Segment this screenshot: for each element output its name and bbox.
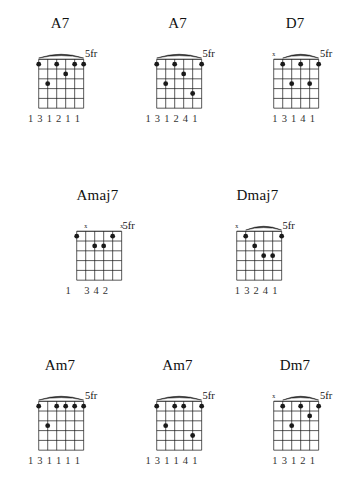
finger-number: 1 [162,112,171,126]
fret-position-label: 5fr [320,391,332,402]
finger-number-row: 13121 [261,454,317,468]
finger-number [110,284,119,298]
chord-diagram: A75fr131211 [8,14,112,130]
fret-position-label: 5fr [123,221,135,232]
fret-position-label: 5fr [203,49,215,60]
finger-number: 1 [233,284,242,298]
finger-number: 4 [91,284,100,298]
finger-number: 1 [73,112,82,126]
fretboard-grid: x5fr13241 [206,206,310,302]
finger-number: 1 [162,454,171,468]
finger-number: 1 [73,454,82,468]
finger-number: 3 [35,112,44,126]
svg-text:x: x [272,393,275,399]
finger-number: 3 [153,454,162,468]
finger-number: 3 [82,284,91,298]
fretboard-grid: 5fr131141 [126,376,230,472]
finger-number: 1 [63,454,72,468]
finger-number: 1 [270,454,279,468]
finger-number: 1 [308,454,317,468]
finger-number [261,112,270,126]
finger-number [73,284,82,298]
fretboard-grid: x5fr13141 [243,34,347,130]
finger-number: 1 [144,112,153,126]
chord-diagram: A75fr131241 [126,14,230,130]
finger-number: 3 [280,112,289,126]
svg-text:x: x [272,51,275,57]
finger-number: 1 [289,454,298,468]
chord-name: A7 [51,14,70,32]
finger-number: 2 [54,112,63,126]
chord-name: Dmaj7 [237,186,279,204]
fret-position-label: 5fr [85,49,97,60]
finger-number-row: 131111 [26,454,82,468]
finger-number-row: 131141 [144,454,200,468]
finger-number: 1 [308,112,317,126]
finger-number-row: 13241 [224,284,280,298]
finger-number: 1 [171,454,180,468]
chord-diagram: D7x5fr13141 [243,14,347,130]
finger-number: 4 [181,112,190,126]
chord-name: D7 [286,14,305,32]
fretboard-grid: 5fr131211 [8,34,112,130]
finger-number: 1 [45,112,54,126]
finger-number-row: 131211 [26,112,82,126]
chord-diagram: Dmaj7x5fr13241 [206,186,310,302]
finger-number-row: 13141 [261,112,317,126]
chord-name: Am7 [45,356,76,374]
fret-position-label: 5fr [320,49,332,60]
chord-diagram: Amaj7xx5fr1342 [46,186,150,302]
finger-number: 4 [298,112,307,126]
chord-diagram: Am75fr131141 [126,356,230,472]
finger-number: 2 [298,454,307,468]
finger-number: 3 [153,112,162,126]
finger-number: 1 [270,284,279,298]
chord-name: Amaj7 [77,186,119,204]
finger-number: 2 [251,284,260,298]
finger-number: 1 [190,112,199,126]
finger-number: 1 [270,112,279,126]
finger-number: 1 [63,112,72,126]
fretboard-grid: x5fr13121 [243,376,347,472]
finger-number [261,454,270,468]
finger-number: 2 [101,284,110,298]
chord-name: Am7 [162,356,193,374]
finger-number: 3 [35,454,44,468]
finger-number-row: 131241 [144,112,200,126]
finger-number: 1 [26,454,35,468]
finger-number: 1 [144,454,153,468]
finger-number: 1 [190,454,199,468]
chord-row-3: Am75fr131111Am75fr131141Dm7x5fr13121 [0,356,355,472]
fretboard-grid: 5fr131111 [8,376,112,472]
chord-diagram: Dm7x5fr13121 [243,356,347,472]
finger-number: 1 [54,454,63,468]
finger-number: 1 [45,454,54,468]
fretboard-grid: xx5fr1342 [46,206,150,302]
finger-number: 2 [171,112,180,126]
finger-number: 3 [280,454,289,468]
finger-number: 1 [26,112,35,126]
finger-number: 4 [181,454,190,468]
finger-number: 1 [64,284,73,298]
fretboard-grid: 5fr131241 [126,34,230,130]
chord-sheet: A75fr131211A75fr131241D7x5fr13141 Amaj7x… [0,0,355,477]
fret-position-label: 5fr [283,221,295,232]
finger-number: 4 [261,284,270,298]
finger-number-row: 1342 [64,284,120,298]
finger-number: 1 [289,112,298,126]
finger-number: 3 [242,284,251,298]
finger-number [224,284,233,298]
chord-name: Dm7 [280,356,311,374]
chord-row-2: Amaj7xx5fr1342Dmaj7x5fr13241 [0,186,355,302]
fret-position-label: 5fr [85,391,97,402]
svg-text:x: x [84,223,87,229]
chord-diagram: Am75fr131111 [8,356,112,472]
chord-name: A7 [168,14,187,32]
chord-row-1: A75fr131211A75fr131241D7x5fr13141 [0,14,355,130]
fret-position-label: 5fr [203,391,215,402]
svg-text:x: x [235,223,238,229]
